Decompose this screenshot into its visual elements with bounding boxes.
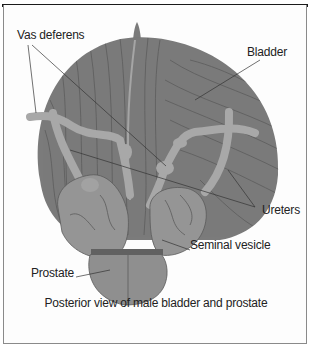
label-ureters: Ureters xyxy=(262,203,300,217)
label-seminal-vesicle: Seminal vesicle xyxy=(190,238,270,252)
figure-caption: Posterior view of male bladder and prost… xyxy=(0,296,312,310)
label-bladder: Bladder xyxy=(247,45,287,59)
label-prostate: Prostate xyxy=(31,266,74,280)
label-vas-deferens: Vas deferens xyxy=(17,28,84,42)
